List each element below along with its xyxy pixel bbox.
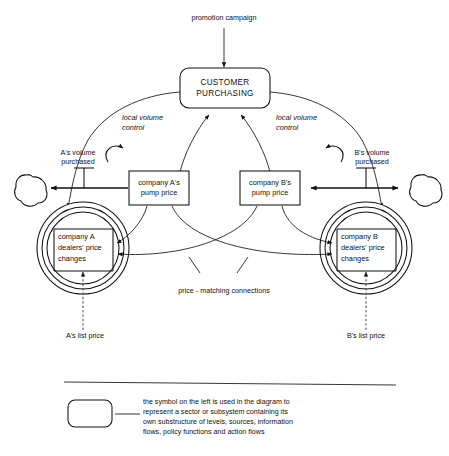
- customer-purchasing-label-line1: CUSTOMER: [200, 78, 249, 87]
- a-pump-to-b-dealers-curve: [172, 206, 332, 255]
- price-matching-leader-lines: [189, 257, 248, 273]
- a-dealers-price-label-line3: changes: [58, 254, 86, 263]
- b-dealers-price-label-line3: changes: [341, 254, 369, 263]
- volume-purchased-links: [68, 92, 382, 208]
- legend-sector-symbol: [68, 400, 112, 427]
- customer-purchasing-label-line2: PURCHASING: [196, 89, 254, 98]
- a-pump-price-label-line1: company A's: [138, 178, 180, 187]
- a-volume-flow: [51, 168, 128, 188]
- b-pump-price-label-line1: company B's: [249, 178, 291, 187]
- b-local-volume-control-label-line2: control: [276, 123, 299, 132]
- b-volume-purchased-label-line2: purchased: [355, 157, 389, 166]
- a-volume-sink-cloud: [15, 175, 47, 207]
- price-matching-connections-label: price - matching connections: [178, 286, 270, 295]
- b-volume-sink-cloud: [410, 175, 442, 207]
- a-local-volume-control-label-line2: control: [122, 123, 145, 132]
- b-dealers-price-label-line2: dealers' price: [341, 243, 385, 252]
- customer-purchasing-sector[interactable]: [180, 68, 270, 108]
- b-local-volume-control-loop-arrow: [326, 146, 343, 162]
- legend-text-line4: flows, policy functions and action flows: [143, 428, 265, 436]
- system-dynamics-diagram: promotion campaign CUSTOMER PURCHASING l…: [0, 0, 449, 456]
- b-list-price-label: B's list price: [347, 331, 385, 340]
- b-local-volume-control-label-line1: local volume: [276, 113, 317, 122]
- leader-right: [237, 257, 248, 273]
- leader-left: [189, 257, 200, 273]
- b-volume-purchased-label-line1: B's volume: [355, 148, 390, 157]
- legend-text-line2: represent a sector or subsystem containi…: [143, 408, 288, 416]
- a-volume-purchased-label-line1: A's volume: [61, 148, 96, 157]
- pump-price-to-sector: [180, 115, 270, 172]
- promotion-campaign-label: promotion campaign: [191, 13, 256, 22]
- legend-divider: [64, 382, 396, 385]
- a-local-volume-control-label-line1: local volume: [122, 113, 163, 122]
- b-pump-to-sector: [241, 115, 270, 172]
- a-pump-to-sector: [180, 115, 209, 172]
- a-volume-purchased-label-line2: purchased: [61, 157, 95, 166]
- a-pump-price-label-line2: pump price: [141, 188, 178, 197]
- b-pump-price-label-line2: pump price: [252, 188, 289, 197]
- diagram-canvas: promotion campaign CUSTOMER PURCHASING l…: [0, 0, 449, 456]
- a-list-price-label: A's list price: [66, 331, 104, 340]
- b-dealers-price-label-line1: company B: [341, 232, 378, 241]
- legend-text-line3: own substructure of levels, sources, inf…: [143, 418, 293, 426]
- a-local-volume-control-loop-arrow: [106, 146, 123, 162]
- b-volume-flow: [311, 168, 398, 188]
- b-pump-to-a-dealers-curve: [118, 206, 257, 255]
- a-dealers-price-label-line2: dealers' price: [58, 243, 102, 252]
- a-dealers-price-label-line1: company A: [58, 232, 95, 241]
- legend-text-line1: the symbol on the left is used in the di…: [143, 398, 290, 406]
- customer-purchasing-box[interactable]: [180, 68, 270, 108]
